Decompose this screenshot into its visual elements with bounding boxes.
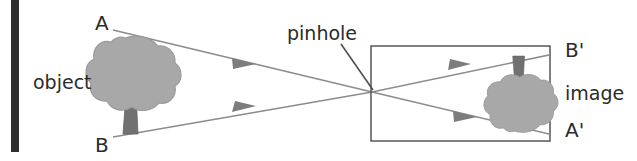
label-point-a: A: [95, 11, 109, 35]
object-tree: [86, 36, 181, 134]
ray-b-arrowhead-right: [448, 59, 471, 70]
label-pinhole: pinhole: [287, 22, 357, 44]
label-point-b: B: [95, 133, 109, 157]
pinhole-camera-figure: object A B pinhole B' image A': [0, 0, 637, 161]
label-point-a-prime: A': [565, 118, 584, 142]
label-point-b-prime: B': [565, 38, 584, 62]
label-image: image: [565, 82, 624, 104]
image-tree: [484, 56, 558, 132]
ray-a-arrowhead-left: [232, 58, 256, 69]
pinhole-leader-line: [341, 44, 373, 90]
label-object: object: [33, 71, 92, 93]
ray-a-arrowhead-right: [453, 111, 477, 122]
diagram-canvas: object A B pinhole B' image A': [0, 0, 637, 161]
page-margin-bar: [11, 0, 19, 152]
ray-b-arrowhead-left: [232, 101, 256, 112]
